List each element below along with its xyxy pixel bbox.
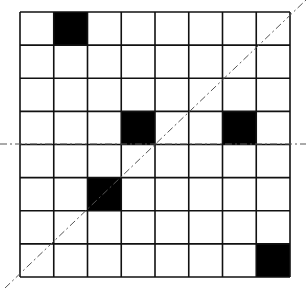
filled-cell xyxy=(54,12,88,45)
grid-diagram xyxy=(0,0,306,288)
filled-cell xyxy=(88,178,122,211)
filled-cell xyxy=(223,111,257,144)
filled-cell xyxy=(121,111,155,144)
filled-cell xyxy=(256,244,290,277)
